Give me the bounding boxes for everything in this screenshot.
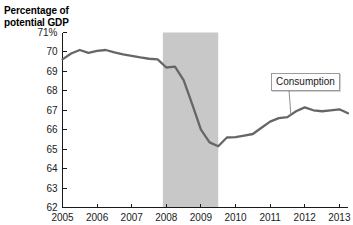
consumption-callout-label: Consumption <box>271 73 340 91</box>
y-tick-label: 71% <box>37 27 57 38</box>
y-tick-label: 70 <box>46 46 58 57</box>
x-tick-label: 2006 <box>86 212 109 223</box>
y-tick-label: 68 <box>46 85 58 96</box>
plot-area: 71%706968676665646362 200520062007200820… <box>0 0 353 225</box>
recession-shading-group <box>163 33 218 208</box>
x-tick-label: 2013 <box>328 212 351 223</box>
x-tick-label: 2007 <box>121 212 144 223</box>
y-tick-label: 69 <box>46 66 58 77</box>
x-tick-label: 2005 <box>51 212 74 223</box>
y-tick-label: 67 <box>46 105 58 116</box>
x-tick-label: 2012 <box>294 212 317 223</box>
x-tick-label: 2011 <box>259 212 281 223</box>
y-tick-label: 66 <box>46 124 58 135</box>
y-axis-tick-labels: 71%706968676665646362 <box>37 27 57 213</box>
chart-container: Percentage ofpotential GDP 71%7069686766… <box>0 0 353 225</box>
x-axis-tick-labels: 200520062007200820092010201120122013 <box>51 212 351 223</box>
y-tick-label: 64 <box>46 163 58 174</box>
recession-band <box>163 33 218 208</box>
x-tick-label: 2010 <box>224 212 247 223</box>
x-tick-label: 2008 <box>155 212 178 223</box>
x-tick-label: 2009 <box>190 212 213 223</box>
y-tick-label: 65 <box>46 144 58 155</box>
callout-leader-line <box>289 90 291 115</box>
y-tick-label: 63 <box>46 183 58 194</box>
